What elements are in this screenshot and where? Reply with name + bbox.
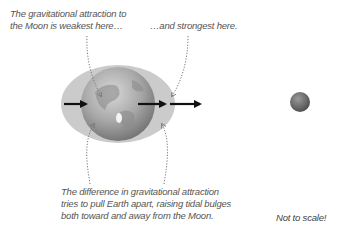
- weakest-label: The gravitational attraction to the Moon…: [10, 8, 126, 32]
- leader-strongest: [172, 36, 188, 96]
- difference-label: The difference in gravitational attracti…: [61, 186, 231, 222]
- leader-near-bulge: [162, 124, 168, 184]
- strongest-label: …and strongest here.: [150, 20, 237, 32]
- difference-label-line-2: tries to pull Earth apart, raising tidal…: [61, 198, 231, 210]
- strongest-label-text: …and strongest here.: [150, 20, 237, 31]
- scale-note-text: Not to scale!: [276, 212, 326, 223]
- polar-highlight: [116, 113, 122, 123]
- weakest-label-line-1: The gravitational attraction to: [10, 8, 126, 20]
- difference-label-line-3: both toward and away from the Moon.: [61, 210, 231, 222]
- weakest-label-line-2: the Moon is weakest here…: [10, 20, 126, 32]
- difference-label-line-1: The difference in gravitational attracti…: [61, 186, 231, 198]
- moon: [290, 92, 310, 112]
- scale-note: Not to scale!: [276, 212, 326, 224]
